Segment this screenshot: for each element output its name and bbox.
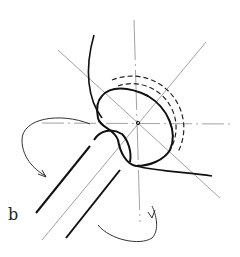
panel-label: b [8,205,18,224]
diagonal-axis-2 [42,42,206,240]
stem-edge-left [36,146,90,213]
socket-curve-upper [88,35,102,118]
socket-curve-lower [136,166,212,176]
rotation-arrow-upper [22,118,90,176]
joint-diagram [0,0,240,257]
vertical-axis [134,20,140,222]
stem-edge-right [66,170,120,238]
rotation-arrow-lower [98,206,157,242]
